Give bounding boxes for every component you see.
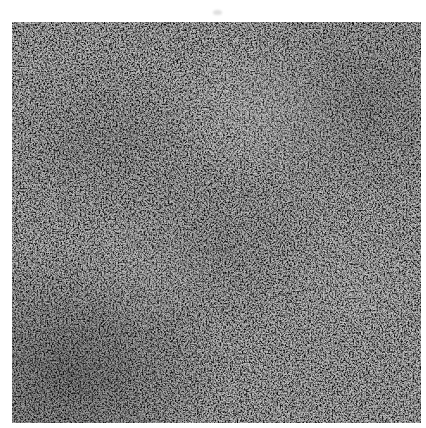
page-root: Grayscale electron micrograph of a fine … (0, 0, 426, 428)
electron-micrograph: Grayscale electron micrograph of a fine … (12, 22, 421, 423)
texture-layer-speckle (12, 22, 421, 423)
scan-artifact-mark (213, 10, 222, 15)
